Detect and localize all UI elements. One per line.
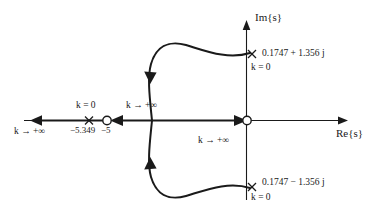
imaginary-axis	[243, 20, 251, 200]
locus-real-mid	[110, 115, 247, 126]
zero-marker-origin	[243, 116, 251, 124]
locus-mid-arrowhead	[110, 115, 123, 126]
zero-marker-real	[103, 116, 111, 124]
pole-real-value-label: −5.349	[70, 126, 95, 135]
pole-upper-value-label: 0.1747 + 1.356 j	[262, 49, 325, 59]
zero-real-value-label: −5	[101, 126, 111, 135]
locus-branch-lower	[144, 121, 250, 198]
locus-branch-upper	[144, 43, 250, 120]
pole-upper-k-label: k = 0	[251, 63, 271, 73]
real-axis-label: Re{s}	[336, 128, 363, 139]
pole-lower-value-label: 0.1747 − 1.356 j	[262, 178, 325, 188]
plot-canvas	[0, 0, 385, 222]
locus-left-arrowhead	[30, 115, 42, 125]
k-infinity-left-label: k → +∞	[14, 127, 45, 137]
branch-upper-arrowhead	[144, 72, 156, 85]
k-infinity-mid-label: k → +∞	[126, 101, 157, 111]
real-axis-arrowhead	[338, 117, 348, 125]
k-infinity-origin-label: k → +∞	[198, 136, 229, 146]
imaginary-axis-arrowhead	[243, 20, 251, 30]
branch-lower-arrowhead	[144, 157, 156, 170]
root-locus-figure: Im{s} Re{s} 0.1747 + 1.356 j k = 0 0.174…	[0, 0, 385, 222]
imaginary-axis-label: Im{s}	[255, 12, 282, 23]
pole-lower-k-label: k = 0	[251, 193, 271, 203]
pole-real-k-label: k = 0	[76, 101, 96, 111]
